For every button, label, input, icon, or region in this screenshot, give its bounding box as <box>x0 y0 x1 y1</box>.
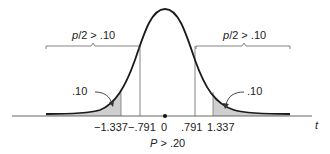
t-distribution-figure: p/2 > .10 p/2 > .10 .10 .10 −1.337 −.791… <box>0 0 330 154</box>
total-p-label: P > .20 <box>150 138 185 149</box>
right-brace-label: p/2 > .10 <box>223 30 266 41</box>
left-tail-area-label: .10 <box>72 86 87 97</box>
right-brace <box>196 43 290 49</box>
left-brace <box>46 43 139 49</box>
left-brace-label: p/2 > .10 <box>72 30 115 41</box>
tick-label-zero: 0 <box>161 122 167 133</box>
tick-label-1337: 1.337 <box>207 122 235 133</box>
tick-label-neg-791: −.791 <box>128 122 156 133</box>
right-tail-area-label: .10 <box>247 86 262 97</box>
right-area-arrow <box>226 92 244 105</box>
tick-label-791: .791 <box>181 122 202 133</box>
bell-curve <box>46 9 290 114</box>
center-point <box>163 114 167 118</box>
axis-label-t: t <box>315 120 318 131</box>
tick-label-neg-1337: −1.337 <box>94 122 128 133</box>
